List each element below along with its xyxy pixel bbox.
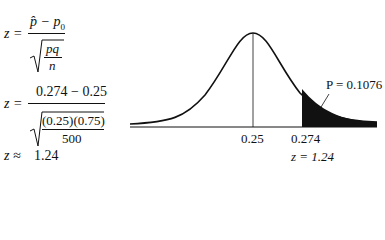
- cutoff-label: 0.274: [291, 131, 320, 147]
- p-label: P = 0.1076: [326, 77, 382, 93]
- z-label: z = 1.24: [291, 149, 334, 165]
- mean-label: 0.25: [241, 131, 264, 147]
